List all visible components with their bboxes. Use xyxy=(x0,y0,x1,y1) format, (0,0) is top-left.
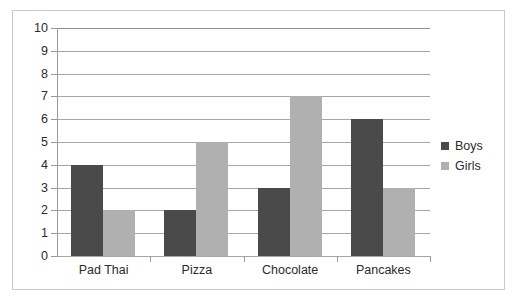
y-axis-tick-mark xyxy=(51,256,58,257)
bar-group xyxy=(337,28,430,256)
x-axis-label-pizza: Pizza xyxy=(150,264,243,277)
legend-swatch-girls xyxy=(441,162,449,170)
x-axis-tick-mark xyxy=(150,256,151,262)
x-axis-tick-mark xyxy=(244,256,245,262)
bar-boys-chocolate xyxy=(258,188,290,256)
y-axis-tick-mark xyxy=(51,119,58,120)
bar-boys-pancakes xyxy=(351,119,383,256)
y-axis-tick-mark xyxy=(51,142,58,143)
bar-group xyxy=(244,28,337,256)
x-axis-tick-mark xyxy=(430,256,431,262)
legend-label-boys: Boys xyxy=(455,140,483,153)
y-axis-tick-label: 1 xyxy=(18,227,48,240)
bar-girls-chocolate xyxy=(290,96,322,256)
y-axis-tick-mark xyxy=(51,233,58,234)
y-axis-tick-label: 5 xyxy=(18,136,48,149)
legend-item-girls[interactable]: Girls xyxy=(441,156,483,176)
y-axis-tick-mark xyxy=(51,74,58,75)
chart-legend: BoysGirls xyxy=(441,136,483,176)
x-axis-tick-mark xyxy=(337,256,338,262)
y-axis-tick-mark xyxy=(51,28,58,29)
bar-girls-pancakes xyxy=(383,188,415,256)
legend-label-girls: Girls xyxy=(455,160,481,173)
y-axis-tick-label: 2 xyxy=(18,204,48,217)
y-axis-tick-mark xyxy=(51,210,58,211)
y-axis-tick-mark xyxy=(51,165,58,166)
y-axis-tick-label: 0 xyxy=(18,250,48,263)
y-axis-tick-label: 10 xyxy=(18,22,48,35)
bar-girls-pad-thai xyxy=(103,210,135,256)
bar-boys-pad-thai xyxy=(71,165,103,256)
bar-group xyxy=(150,28,243,256)
x-axis-label-pad-thai: Pad Thai xyxy=(57,264,150,277)
x-axis-label-pancakes: Pancakes xyxy=(337,264,430,277)
bar-girls-pizza xyxy=(196,142,228,256)
y-axis-tick-label: 6 xyxy=(18,113,48,126)
y-axis-tick-label: 8 xyxy=(18,68,48,81)
y-axis-tick-label: 4 xyxy=(18,159,48,172)
legend-swatch-boys xyxy=(441,142,449,150)
y-axis-labels: 012345678910 xyxy=(12,0,48,308)
x-axis-label-chocolate: Chocolate xyxy=(244,264,337,277)
y-axis-tick-label: 3 xyxy=(18,182,48,195)
legend-item-boys[interactable]: Boys xyxy=(441,136,483,156)
y-axis-tick-mark xyxy=(51,96,58,97)
plot-area xyxy=(57,28,430,256)
y-axis-tick-mark xyxy=(51,51,58,52)
chart-screenshot: 012345678910 Pad ThaiPizzaChocolatePanca… xyxy=(0,0,518,308)
bar-boys-pizza xyxy=(164,210,196,256)
y-axis-tick-label: 9 xyxy=(18,45,48,58)
y-axis-tick-mark xyxy=(51,188,58,189)
bar-group xyxy=(57,28,150,256)
y-axis-tick-label: 7 xyxy=(18,90,48,103)
